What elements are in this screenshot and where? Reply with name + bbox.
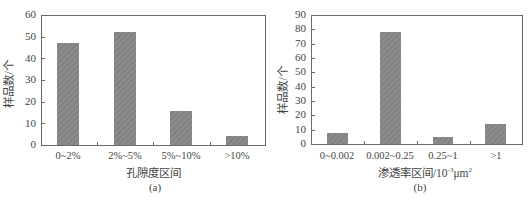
xtick-mark (470, 141, 471, 144)
ytick-mark (312, 130, 315, 131)
x-axis-title-main: 渗透率区间/10 (378, 167, 448, 179)
ytick-mark (312, 58, 315, 59)
ytick-mark (312, 87, 315, 88)
ytick-mark (312, 72, 315, 73)
x-axis-title-exp2: 2 (469, 166, 473, 174)
bar-0.002-0.25 (380, 32, 401, 144)
x-axis-title: 渗透率区间/10-3μm2 (365, 164, 485, 180)
bar-0.25-1 (433, 137, 453, 144)
ytick-label: 70 (284, 38, 306, 49)
chart-panel-b: 0 10 20 30 40 50 60 70 80 90 0~0.002 0.0… (0, 0, 529, 202)
xtick-label: >1 (466, 150, 526, 161)
ytick-mark (312, 44, 315, 45)
ytick-label: 90 (284, 9, 306, 20)
x-axis-title-unit: μm (453, 167, 468, 179)
ytick-label: 80 (284, 23, 306, 34)
ytick-mark (312, 101, 315, 102)
bar-gt-1 (485, 124, 506, 144)
panel-caption: (b) (405, 181, 435, 193)
xtick-mark (364, 141, 365, 144)
bar-0-0.002 (327, 133, 348, 144)
xtick-label: 0.25~1 (413, 150, 473, 161)
ytick-label: 10 (284, 124, 306, 135)
ytick-label: 0 (284, 138, 306, 149)
ytick-mark (312, 29, 315, 30)
y-axis-title: 样品数/个 (274, 60, 290, 120)
xtick-mark (417, 141, 418, 144)
ytick-mark (312, 115, 315, 116)
xtick-label: 0~0.002 (307, 150, 367, 161)
xtick-label: 0.002~0.25 (360, 150, 420, 161)
